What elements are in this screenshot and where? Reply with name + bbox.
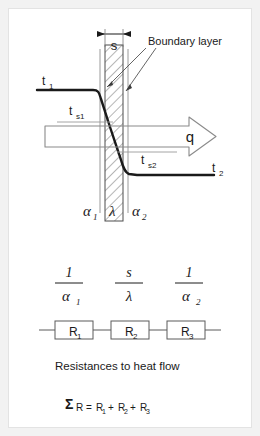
svg-text:s: s bbox=[126, 265, 132, 280]
label-ts2: t s2 bbox=[141, 153, 157, 170]
heat-flux-label: q bbox=[186, 128, 194, 145]
boundary-layer-leader-2 bbox=[126, 48, 156, 91]
boundary-layer-leader-2-arrowhead bbox=[126, 84, 132, 91]
svg-text:1: 1 bbox=[93, 212, 98, 222]
svg-text:+: + bbox=[130, 402, 136, 413]
svg-text:α: α bbox=[182, 288, 191, 304]
svg-text:t: t bbox=[212, 161, 216, 175]
svg-text:Σ: Σ bbox=[65, 396, 73, 412]
svg-text:1: 1 bbox=[77, 332, 82, 341]
svg-text:α: α bbox=[132, 203, 141, 219]
fraction-conduction-wall: s λ bbox=[115, 265, 143, 304]
label-lambda: λ bbox=[108, 203, 116, 219]
label-alpha2: α 2 bbox=[132, 203, 147, 222]
label-alpha1: α 1 bbox=[83, 203, 98, 222]
svg-text:1: 1 bbox=[76, 297, 81, 307]
svg-text:t: t bbox=[42, 74, 46, 88]
svg-text:α: α bbox=[83, 203, 92, 219]
figure-canvas: s Boundary layer q t 1 t s1 bbox=[8, 8, 252, 428]
svg-text:R: R bbox=[76, 402, 83, 413]
sum-equation: Σ R = R 1 + R 2 + R 3 bbox=[65, 396, 150, 415]
svg-text:2: 2 bbox=[196, 297, 201, 307]
svg-text:+: + bbox=[108, 402, 114, 413]
label-t1: t 1 bbox=[42, 74, 54, 91]
svg-text:3: 3 bbox=[146, 408, 150, 415]
heat-transfer-diagram: s Boundary layer q t 1 t s1 bbox=[9, 9, 252, 428]
svg-text:1: 1 bbox=[102, 408, 106, 415]
svg-text:α: α bbox=[62, 288, 71, 304]
svg-text:s1: s1 bbox=[76, 112, 85, 121]
svg-text:1: 1 bbox=[66, 265, 73, 280]
svg-text:2: 2 bbox=[142, 212, 147, 222]
svg-text:3: 3 bbox=[189, 332, 194, 341]
fraction-convection-inside: 1 α 1 bbox=[55, 265, 83, 307]
diagram-caption: Resistances to heat flow bbox=[55, 360, 180, 372]
svg-text:2: 2 bbox=[124, 408, 128, 415]
dimension-arrowhead-right bbox=[123, 31, 131, 37]
svg-text:1: 1 bbox=[186, 265, 193, 280]
svg-text:λ: λ bbox=[125, 288, 133, 304]
label-ts1: t s1 bbox=[69, 104, 85, 121]
svg-text:2: 2 bbox=[219, 169, 224, 178]
svg-text:1: 1 bbox=[49, 82, 54, 91]
resistor-network: R 1 R 2 R 3 bbox=[39, 321, 221, 341]
boundary-layer-label: Boundary layer bbox=[148, 35, 222, 47]
wall-slab bbox=[105, 45, 123, 221]
fraction-convection-outside: 1 α 2 bbox=[175, 265, 203, 307]
svg-text:=: = bbox=[86, 402, 92, 413]
svg-text:t: t bbox=[69, 104, 73, 118]
svg-text:2: 2 bbox=[133, 332, 138, 341]
svg-text:s2: s2 bbox=[148, 161, 157, 170]
thickness-label: s bbox=[111, 38, 118, 53]
svg-text:t: t bbox=[141, 153, 145, 167]
figure-outer-frame: s Boundary layer q t 1 t s1 bbox=[0, 0, 260, 436]
dimension-arrowhead-left bbox=[97, 31, 105, 37]
